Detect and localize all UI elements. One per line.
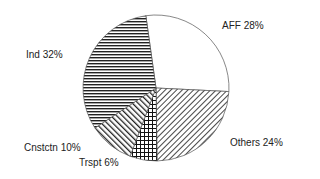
pie-slice-aff bbox=[146, 15, 229, 92]
pie-slice-others bbox=[156, 88, 229, 161]
pie-slices bbox=[83, 15, 229, 161]
slice-label-aff: AFF 28% bbox=[222, 20, 264, 32]
slice-label-others: Others 24% bbox=[230, 137, 283, 149]
slice-label-trspt: Trspt 6% bbox=[79, 157, 119, 169]
slice-label-cnstctn: Cnstctn 10% bbox=[24, 142, 81, 154]
slice-label-ind: Ind 32% bbox=[26, 49, 63, 61]
